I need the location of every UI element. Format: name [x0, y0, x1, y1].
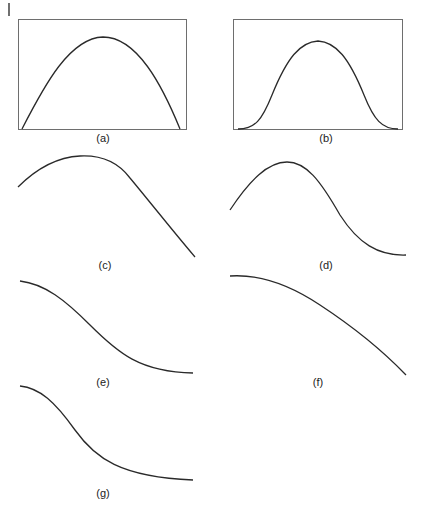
panel-f-curve — [230, 276, 406, 375]
panel-a-frame — [19, 20, 187, 130]
panel-a-label: (a) — [96, 132, 109, 144]
panel-b-curve — [238, 41, 398, 129]
panel-g-curve — [20, 386, 193, 480]
panel-e-label: (e) — [96, 376, 109, 388]
panel-b — [234, 20, 403, 130]
panel-f-label: (f) — [313, 376, 323, 388]
panel-c-label: (c) — [99, 259, 112, 271]
panel-b-label: (b) — [319, 132, 332, 144]
panel-e-curve — [20, 281, 193, 373]
figure-canvas — [0, 0, 423, 514]
panel-g-label: (g) — [96, 487, 109, 499]
panel-a — [19, 20, 187, 130]
panel-d-curve — [230, 162, 406, 255]
panel-b-frame — [234, 20, 403, 130]
panel-d-label: (d) — [319, 259, 332, 271]
panel-c-curve — [18, 156, 195, 257]
panel-a-curve — [22, 37, 180, 129]
